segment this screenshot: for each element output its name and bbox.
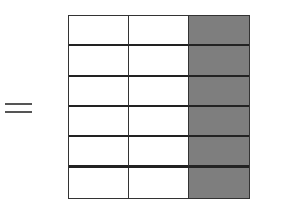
grid-cell (129, 16, 189, 46)
grid-cell (69, 168, 129, 198)
equals-bar-top (5, 103, 32, 105)
grid-cell (69, 46, 129, 76)
grid-cell-shaded (189, 107, 249, 137)
grid-cell (129, 46, 189, 76)
grid-cell-shaded (189, 77, 249, 107)
grid-cell (69, 16, 129, 46)
grid-cell-shaded (189, 46, 249, 76)
grid-cell-shaded (189, 137, 249, 167)
grid-cell (129, 168, 189, 198)
grid-cell (129, 137, 189, 167)
grid-cell (69, 77, 129, 107)
grid-cell (69, 137, 129, 167)
equals-bar-bottom (5, 111, 32, 113)
grid-cell-shaded (189, 16, 249, 46)
equals-sign (5, 103, 32, 114)
fraction-grid (68, 15, 250, 199)
grid-cell-shaded (189, 168, 249, 198)
grid-cell (69, 107, 129, 137)
grid-cell (129, 107, 189, 137)
grid-cell (129, 77, 189, 107)
